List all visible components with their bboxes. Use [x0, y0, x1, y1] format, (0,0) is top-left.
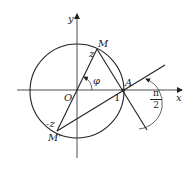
point-m-label: M: [98, 39, 108, 49]
point-a-label: A: [125, 78, 132, 88]
angle-right-label: π 2: [150, 89, 162, 110]
point-m-z-label: z: [89, 49, 94, 59]
x-axis-label: x: [176, 93, 182, 103]
point-a-coord-label: 1: [114, 93, 120, 103]
angle-phi-label: φ: [93, 76, 100, 86]
origin-label: O: [64, 93, 72, 103]
point-a: [121, 88, 124, 91]
point-m-prime-label: M': [48, 133, 61, 143]
angle-right-numerator: π: [153, 88, 159, 98]
point-m-prime-z-label: -z: [46, 119, 55, 129]
angle-phi-arc: [84, 77, 92, 90]
angle-right-denominator: 2: [153, 100, 159, 110]
y-axis-label: y: [68, 14, 74, 24]
